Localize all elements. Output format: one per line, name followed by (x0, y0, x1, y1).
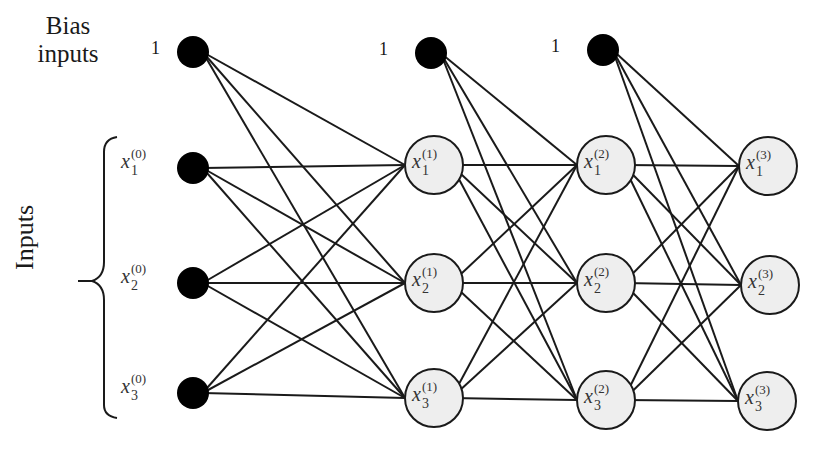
edge (203, 165, 405, 393)
edge (451, 398, 577, 400)
edge (623, 400, 738, 401)
bias-value-label: 1 (551, 36, 560, 57)
edge (623, 283, 741, 285)
input-label: x1(0) (121, 150, 152, 173)
neuron-label: x2(3) (748, 270, 779, 293)
neuron-label: x3(1) (412, 383, 443, 406)
edge (623, 165, 739, 166)
edge (203, 393, 405, 398)
connection-edges (203, 50, 741, 401)
neuron-label: x1(2) (584, 150, 615, 173)
neuron-label: x3(3) (745, 386, 776, 409)
bias-node (587, 34, 619, 66)
input-node (177, 152, 209, 184)
neuron-label: x2(2) (584, 268, 615, 291)
neuron-label: x3(2) (584, 385, 615, 408)
bias-value-label: 1 (379, 39, 388, 60)
edge (441, 53, 577, 165)
input-node (177, 267, 209, 299)
bias-value-label: 1 (151, 38, 160, 59)
neuron-label: x2(1) (412, 268, 443, 291)
bias-title-line2: inputs (8, 40, 128, 68)
input-label: x3(0) (121, 375, 152, 398)
edge (441, 53, 577, 400)
neuron-label: x1(1) (412, 150, 443, 173)
input-node (177, 377, 209, 409)
bias-node (177, 36, 209, 68)
bias-node (415, 37, 447, 69)
edge (203, 52, 405, 165)
bias-title-line1: Bias (8, 12, 128, 40)
inputs-title: Inputs (10, 205, 40, 270)
inputs-brace (78, 137, 117, 418)
edge (613, 50, 739, 166)
input-label: x2(0) (121, 265, 152, 288)
bias-inputs-title: Bias inputs (8, 12, 128, 68)
neuron-label: x1(3) (746, 151, 777, 174)
